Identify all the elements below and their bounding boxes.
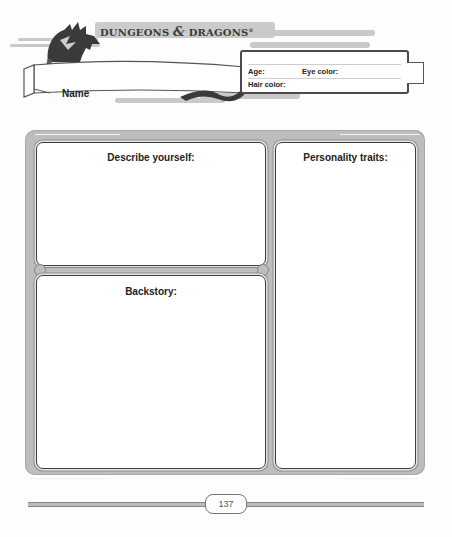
describe-yourself-title: Describe yourself:	[37, 152, 265, 163]
decor-streak	[250, 42, 370, 48]
backstory-panel[interactable]: Backstory:	[36, 275, 266, 469]
character-info-box: Age: Eye color: Hair color:	[240, 50, 409, 94]
logo-word-dungeons: DUNGEONS	[100, 27, 169, 38]
backstory-title: Backstory:	[37, 286, 265, 297]
eye-color-label: Eye color:	[302, 67, 338, 76]
frame-highlight	[35, 134, 120, 135]
eye-color-input[interactable]	[344, 66, 399, 76]
hair-color-input[interactable]	[292, 79, 399, 89]
dnd-logo: DUNGEONS & DRAGONS®	[100, 24, 254, 39]
info-scroll-tab	[407, 62, 424, 84]
footer-rule-left	[28, 502, 206, 507]
personality-traits-panel[interactable]: Personality traits:	[275, 142, 416, 469]
page-number: 137	[205, 494, 247, 514]
name-input-area[interactable]	[34, 66, 234, 84]
age-label: Age:	[248, 67, 265, 76]
logo-word-dragons: DRAGONS	[189, 27, 249, 38]
logo-ampersand: &	[173, 24, 185, 39]
frame-highlight	[338, 478, 418, 479]
personality-traits-title: Personality traits:	[276, 152, 415, 163]
age-input[interactable]	[270, 66, 296, 76]
info-rule-line	[248, 64, 401, 65]
frame-highlight	[340, 134, 420, 135]
logo-trademark: ®	[248, 27, 253, 33]
panel-divider	[35, 267, 266, 274]
frame-highlight	[30, 478, 110, 479]
footer-rule-right	[244, 502, 424, 507]
name-field-label: Name	[62, 88, 89, 99]
describe-yourself-panel[interactable]: Describe yourself:	[36, 142, 266, 266]
hair-color-label: Hair color:	[248, 80, 286, 89]
